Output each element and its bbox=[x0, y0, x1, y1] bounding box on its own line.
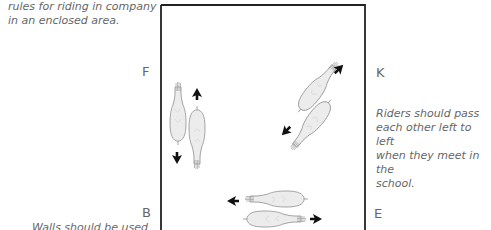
arrow-down-icon bbox=[172, 152, 182, 164]
horse-bottom-2 bbox=[243, 211, 306, 227]
arrow-up-icon bbox=[192, 88, 202, 100]
arrow-right-icon bbox=[310, 214, 322, 224]
arrow-left-icon bbox=[227, 196, 239, 206]
arrow-down-left-icon bbox=[278, 123, 294, 139]
horse-left-1 bbox=[170, 82, 186, 145]
horse-left-2 bbox=[189, 106, 205, 169]
horse-bottom-1 bbox=[245, 191, 308, 207]
arena-diagram bbox=[0, 0, 491, 230]
